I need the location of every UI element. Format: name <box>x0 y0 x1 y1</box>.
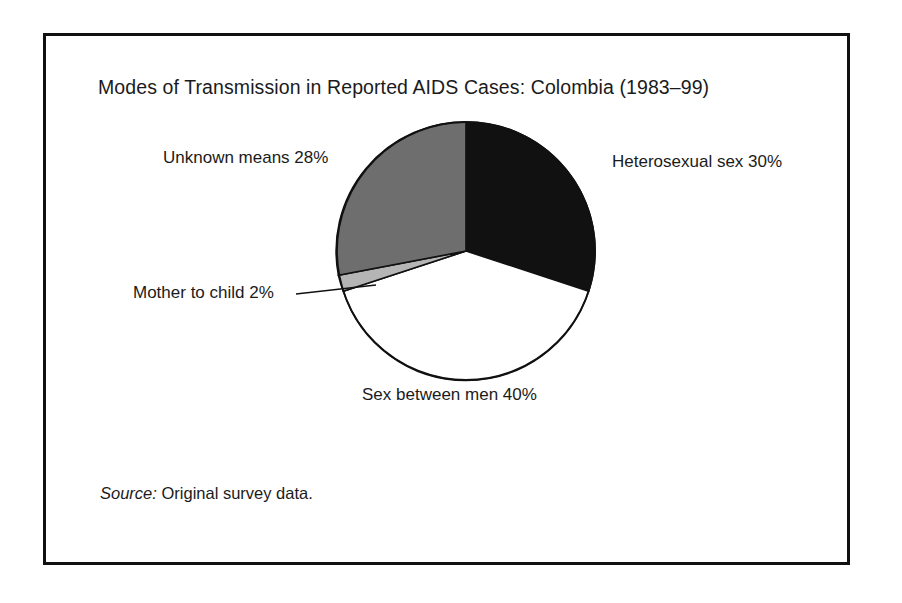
source-note: Source: Original survey data. <box>100 484 313 503</box>
pie-label-mother-to-child: Mother to child 2% <box>133 283 274 303</box>
pie-label-unknown-means: Unknown means 28% <box>163 148 328 168</box>
pie-label-sex-between-men: Sex between men 40% <box>362 385 537 405</box>
pie-chart <box>330 110 602 392</box>
figure-root: Modes of Transmission in Reported AIDS C… <box>0 0 902 603</box>
pie-slice-unknown-means[interactable] <box>336 122 466 275</box>
page-title: Modes of Transmission in Reported AIDS C… <box>98 76 709 99</box>
pie-label-heterosexual-sex: Heterosexual sex 30% <box>612 152 782 172</box>
source-label: Source: <box>100 484 157 502</box>
leader-line-mother-to-child <box>292 272 382 308</box>
source-text: Original survey data. <box>157 484 313 502</box>
